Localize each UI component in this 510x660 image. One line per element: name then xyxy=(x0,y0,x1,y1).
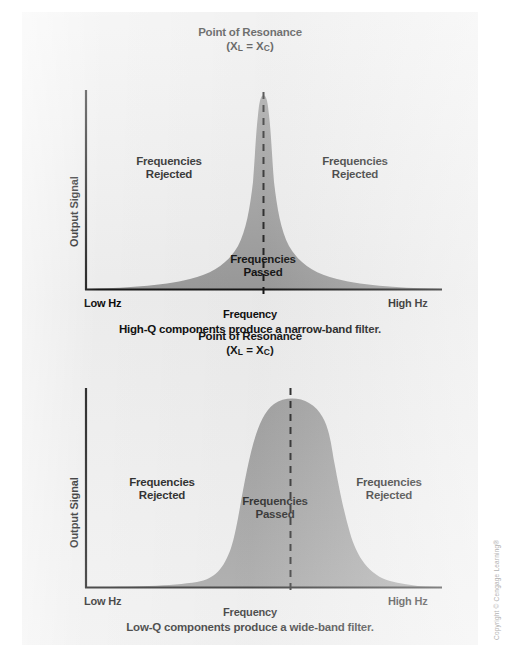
reactance-c-subscript: C xyxy=(264,43,270,53)
reactance-c-subscript: C xyxy=(264,347,270,357)
resonance-label-narrow: Point of Resonance (XL = XC) xyxy=(22,26,478,53)
reactance-l-subscript: L xyxy=(238,347,243,357)
resonance-equation: (XL = XC) xyxy=(22,40,478,53)
narrow-band-x-axis-label: Frequency xyxy=(22,308,478,320)
wide-band-region-rejected-right: Frequencies Rejected xyxy=(334,476,444,502)
chart-wide-band: Point of Resonance (XL = XC) Output Sign… xyxy=(22,330,478,635)
narrow-band-region-rejected-right: Frequencies Rejected xyxy=(300,155,410,181)
wide-band-region-rejected-left: Frequencies Rejected xyxy=(107,476,217,502)
wide-band-y-axis-label: Output Signal xyxy=(68,477,80,548)
resonance-title-text: Point of Resonance xyxy=(198,26,302,38)
figure-panel: Point of Resonance (XL = XC) Output Sign… xyxy=(22,12,478,645)
resonance-label-wide: Point of Resonance (XL = XC) xyxy=(22,330,478,357)
wide-band-region-passed: Frequencies Passed xyxy=(220,495,330,521)
narrow-band-y-axis-label: Output Signal xyxy=(68,176,80,247)
wide-band-x-axis-label: Frequency xyxy=(22,606,478,618)
copyright-notice: Copyright © Cengage Learning® xyxy=(493,540,500,640)
wide-band-caption: Low-Q components produce a wide-band fil… xyxy=(22,621,478,633)
resonance-equation: (XL = XC) xyxy=(22,344,478,357)
narrow-band-region-passed: Frequencies Passed xyxy=(208,253,318,279)
chart-narrow-band: Point of Resonance (XL = XC) Output Sign… xyxy=(22,22,478,332)
resonance-title-text: Point of Resonance xyxy=(198,330,302,342)
reactance-l-subscript: L xyxy=(238,43,243,53)
narrow-band-region-rejected-left: Frequencies Rejected xyxy=(114,155,224,181)
